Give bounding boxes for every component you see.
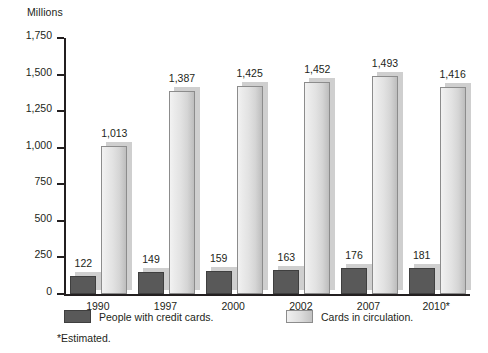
bar-rect[interactable]	[273, 270, 299, 294]
bar-rect[interactable]	[206, 271, 232, 294]
bar-value-label: 1,387	[169, 72, 195, 84]
bar-rect[interactable]	[409, 268, 435, 294]
y-tick-label: 750	[34, 175, 52, 187]
bar-group: 1761,493	[335, 38, 403, 294]
bar-rect[interactable]	[341, 268, 367, 294]
bar-rect[interactable]	[304, 82, 330, 294]
bar-cards[interactable]: 1,493	[372, 76, 398, 294]
bar-rect[interactable]	[372, 76, 398, 294]
bar-group: 1491,387	[132, 38, 200, 294]
x-axis-line	[64, 294, 470, 296]
legend-label: People with credit cards.	[99, 311, 213, 323]
bar-people[interactable]: 159	[206, 271, 232, 294]
bar-value-label: 149	[142, 253, 160, 265]
y-tick-label: 1,250	[26, 102, 52, 114]
y-tick-label: 500	[34, 212, 52, 224]
bar-value-label: 159	[210, 252, 228, 264]
bar-group: 1631,452	[267, 38, 335, 294]
y-axis-title: Millions	[27, 6, 63, 18]
y-tick: 1,250	[57, 110, 64, 112]
bar-value-label: 1,416	[440, 68, 466, 80]
y-tick-label: 250	[34, 248, 52, 260]
bar-group: 1591,425	[199, 38, 267, 294]
bar-cards[interactable]: 1,452	[304, 82, 330, 294]
bar-value-label: 181	[413, 249, 431, 261]
bar-value-label: 122	[75, 257, 93, 269]
bar-value-label: 1,013	[101, 127, 127, 139]
y-tick-label: 1,750	[26, 29, 52, 41]
bar-people[interactable]: 163	[273, 270, 299, 294]
bar-cards[interactable]: 1,425	[237, 86, 263, 294]
bar-value-label: 1,493	[372, 57, 398, 69]
bar-value-label: 1,425	[237, 67, 263, 79]
bar-value-label: 163	[278, 251, 296, 263]
legend-item[interactable]: Cards in circulation.	[286, 310, 413, 323]
y-tick: 250	[57, 256, 64, 258]
y-tick: 750	[57, 183, 64, 185]
y-tick-label: 1,500	[26, 66, 52, 78]
bar-people[interactable]: 122	[70, 276, 96, 294]
bar-chart: Millions 1,7501,5001,2501,0007505002500 …	[0, 0, 488, 353]
bar-rect[interactable]	[138, 272, 164, 294]
y-tick-label: 0	[46, 285, 52, 297]
y-tick-label: 1,000	[26, 139, 52, 151]
bar-group: 1221,013	[64, 38, 132, 294]
y-tick: 500	[57, 220, 64, 222]
bar-people[interactable]: 149	[138, 272, 164, 294]
bar-value-label: 176	[345, 249, 363, 261]
y-tick: 1,000	[57, 147, 64, 149]
bar-cards[interactable]: 1,013	[101, 146, 127, 294]
bar-rect[interactable]	[440, 87, 466, 294]
legend-swatch	[64, 310, 91, 323]
bar-group: 1811,416	[402, 38, 470, 294]
legend-swatch	[286, 310, 313, 323]
bar-people[interactable]: 181	[409, 268, 435, 294]
bar-rect[interactable]	[237, 86, 263, 294]
y-tick: 1,500	[57, 74, 64, 76]
legend-label: Cards in circulation.	[321, 311, 413, 323]
plot-area: 1,7501,5001,2501,0007505002500 1221,0131…	[64, 38, 470, 294]
y-tick: 0	[57, 293, 64, 295]
bar-rect[interactable]	[169, 91, 195, 294]
bar-rect[interactable]	[101, 146, 127, 294]
bar-cards[interactable]: 1,416	[440, 87, 466, 294]
y-tick: 1,750	[57, 37, 64, 39]
footnote: *Estimated.	[57, 332, 111, 344]
legend-item[interactable]: People with credit cards.	[64, 310, 213, 323]
bar-value-label: 1,452	[304, 63, 330, 75]
bar-people[interactable]: 176	[341, 268, 367, 294]
bar-cards[interactable]: 1,387	[169, 91, 195, 294]
bar-rect[interactable]	[70, 276, 96, 294]
